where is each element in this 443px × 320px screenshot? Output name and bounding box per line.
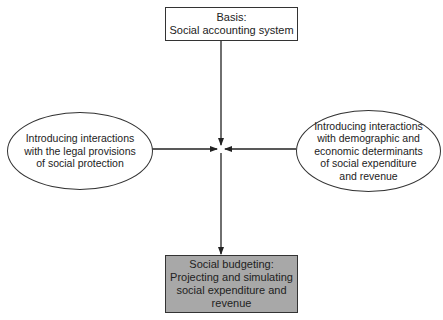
node-basis: Basis: Social accounting system <box>165 7 298 41</box>
node-social-budgeting-label: Social budgeting: Projecting and simulat… <box>170 258 293 310</box>
node-legal-provisions-label: Introducing interactions with the legal … <box>24 132 135 170</box>
node-basis-label: Basis: Social accounting system <box>169 11 293 37</box>
node-legal-provisions: Introducing interactions with the legal … <box>7 112 153 190</box>
node-social-budgeting: Social budgeting: Projecting and simulat… <box>165 255 298 313</box>
node-demographic-economic-label: Introducing interactions with demographi… <box>314 120 423 183</box>
node-demographic-economic: Introducing interactions with demographi… <box>296 110 441 192</box>
